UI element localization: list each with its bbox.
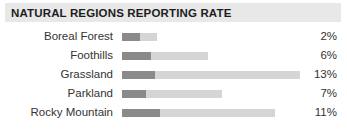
chart-header-band: NATURAL REGIONS REPORTING RATE xyxy=(5,3,341,22)
natural-regions-reporting-rate-chart: NATURAL REGIONS REPORTING RATE Boreal Fo… xyxy=(0,0,347,139)
chart-title: NATURAL REGIONS REPORTING RATE xyxy=(5,7,231,19)
row-bar xyxy=(122,33,157,41)
chart-row: Grassland13% xyxy=(0,65,347,84)
row-value: 6% xyxy=(287,46,337,65)
bar-segment-remainder xyxy=(151,52,208,60)
row-value: 7% xyxy=(287,84,337,103)
row-bar xyxy=(122,71,300,79)
bar-segment-remainder xyxy=(140,33,157,41)
row-bar xyxy=(122,90,222,98)
row-bar xyxy=(122,52,208,60)
row-value: 13% xyxy=(287,65,337,84)
row-label: Boreal Forest xyxy=(0,27,113,46)
chart-rows: Boreal Forest2%Foothills6%Grassland13%Pa… xyxy=(0,27,347,122)
row-label: Parkland xyxy=(0,84,113,103)
bar-segment-reported xyxy=(122,52,151,60)
bar-segment-reported xyxy=(122,109,160,117)
bar-segment-remainder xyxy=(146,90,222,98)
row-bar xyxy=(122,109,275,117)
row-value: 2% xyxy=(287,27,337,46)
chart-row: Boreal Forest2% xyxy=(0,27,347,46)
row-value: 11% xyxy=(287,103,337,122)
chart-row: Rocky Mountain11% xyxy=(0,103,347,122)
bar-segment-reported xyxy=(122,71,155,79)
row-label: Foothills xyxy=(0,46,113,65)
row-label: Rocky Mountain xyxy=(0,103,113,122)
bar-segment-reported xyxy=(122,90,146,98)
bar-segment-reported xyxy=(122,33,140,41)
chart-row: Foothills6% xyxy=(0,46,347,65)
chart-row: Parkland7% xyxy=(0,84,347,103)
bar-segment-remainder xyxy=(155,71,300,79)
row-label: Grassland xyxy=(0,65,113,84)
bar-segment-remainder xyxy=(160,109,275,117)
